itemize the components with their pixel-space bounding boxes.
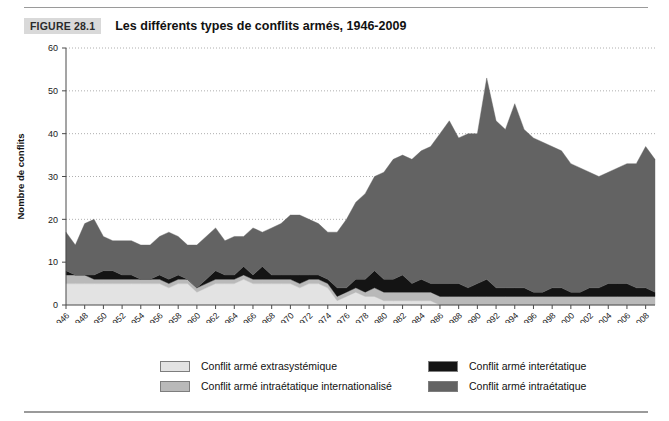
figure-header: FIGURE 28.1 Les différents types de conf… xyxy=(24,16,648,36)
top-divider xyxy=(24,7,648,8)
bottom-divider xyxy=(24,411,648,413)
y-tick-label: 60 xyxy=(48,43,58,53)
stacked-area-chart: 0102030405060194619481950195219541956195… xyxy=(0,38,669,323)
x-tick-label: 1976 xyxy=(331,310,352,323)
x-tick-label: 1992 xyxy=(481,310,502,323)
figure-container: FIGURE 28.1 Les différents types de conf… xyxy=(0,0,669,421)
x-tick-label: 1986 xyxy=(425,310,446,323)
legend-label: Conflit armé intraétatique xyxy=(469,380,586,392)
x-tick-label: 1954 xyxy=(126,310,147,323)
legend-label: Conflit armé interétatique xyxy=(469,360,586,372)
x-tick-label: 1966 xyxy=(238,310,259,323)
legend-label: Conflit armé intraétatique international… xyxy=(201,380,392,392)
legend-column-right: Conflit armé interétatiqueConflit armé i… xyxy=(428,358,586,398)
legend-label: Conflit armé extrasystémique xyxy=(201,360,337,372)
x-tick-label: 1984 xyxy=(406,310,427,323)
legend-swatch xyxy=(428,381,458,392)
y-tick-label: 30 xyxy=(48,172,58,182)
legend-item: Conflit armé interétatique xyxy=(428,358,586,374)
legend-swatch xyxy=(428,361,458,372)
legend-swatch xyxy=(160,381,190,392)
x-tick-label: 2006 xyxy=(612,310,633,323)
y-tick-label: 50 xyxy=(48,86,58,96)
figure-number-badge: FIGURE 28.1 xyxy=(24,18,101,35)
y-tick-label: 10 xyxy=(48,257,58,267)
y-tick-label: 0 xyxy=(53,300,58,310)
x-tick-label: 1964 xyxy=(219,310,240,323)
x-tick-label: 1948 xyxy=(70,310,91,323)
chart-legend: Conflit armé extrasystémiqueConflit armé… xyxy=(0,358,669,400)
x-tick-label: 1958 xyxy=(163,310,184,323)
x-tick-label: 1970 xyxy=(275,310,296,323)
x-tick-label: 1994 xyxy=(500,310,521,323)
y-tick-label: 40 xyxy=(48,129,58,139)
x-tick-label: 2004 xyxy=(593,310,614,323)
page-title: Les différents types de conflits armés, … xyxy=(115,19,406,33)
legend-item: Conflit armé extrasystémique xyxy=(160,358,392,374)
x-tick-label: 1978 xyxy=(350,310,371,323)
x-tick-label: 1974 xyxy=(313,310,334,323)
legend-item: Conflit armé intraétatique xyxy=(428,378,586,394)
x-tick-label: 1972 xyxy=(294,310,315,323)
x-tick-label: 1960 xyxy=(182,310,203,323)
y-tick-label: 20 xyxy=(48,215,58,225)
x-tick-label: 1988 xyxy=(443,310,464,323)
x-tick-label: 1950 xyxy=(88,310,109,323)
x-tick-label: 1952 xyxy=(107,310,128,323)
x-tick-label: 1990 xyxy=(462,310,483,323)
legend-column-left: Conflit armé extrasystémiqueConflit armé… xyxy=(160,358,392,398)
x-tick-label: 1968 xyxy=(256,310,277,323)
x-tick-label: 2008 xyxy=(630,310,651,323)
x-tick-label: 2002 xyxy=(574,310,595,323)
x-tick-label: 1946 xyxy=(51,310,72,323)
x-tick-label: 1996 xyxy=(518,310,539,323)
legend-item: Conflit armé intraétatique international… xyxy=(160,378,392,394)
x-tick-label: 1962 xyxy=(200,310,221,323)
x-tick-label: 1980 xyxy=(369,310,390,323)
y-axis-title: Nombre de conflits xyxy=(15,133,26,219)
x-tick-label: 2000 xyxy=(556,310,577,323)
legend-swatch xyxy=(160,361,190,372)
x-tick-label: 1998 xyxy=(537,310,558,323)
x-tick-label: 1982 xyxy=(387,310,408,323)
x-tick-label: 1956 xyxy=(144,310,165,323)
chart-plot-area: 0102030405060194619481950195219541956195… xyxy=(0,38,669,323)
